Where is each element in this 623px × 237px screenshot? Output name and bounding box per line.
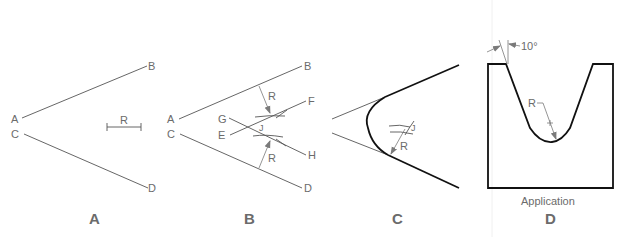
label-g: G xyxy=(218,113,227,125)
label-j: J xyxy=(411,123,416,133)
label-r: R xyxy=(528,97,536,109)
caption-a: A xyxy=(89,210,100,227)
fillet-construction-diagram: A C B D R A A C B D E F G H R xyxy=(0,0,623,237)
construction-line-upper xyxy=(332,97,385,119)
center-arc-2 xyxy=(390,132,413,134)
line-gh xyxy=(229,118,306,155)
caption-b: B xyxy=(244,210,255,227)
final-line-upper xyxy=(385,65,459,97)
label-h: H xyxy=(308,149,316,161)
panel-b: A C B D E F G H R R J B xyxy=(167,60,316,227)
angle-extension-slant xyxy=(499,40,507,64)
caption-d: D xyxy=(545,210,556,227)
label-a: A xyxy=(167,113,175,125)
label-angle: 10° xyxy=(521,40,538,52)
line-cd xyxy=(180,134,302,188)
label-b: B xyxy=(148,60,155,72)
final-line-lower xyxy=(388,155,459,188)
construction-line-lower xyxy=(332,133,388,155)
line-cd xyxy=(24,134,148,188)
label-radius: R xyxy=(120,114,128,126)
label-b: B xyxy=(304,60,311,72)
label-a: A xyxy=(11,113,19,125)
label-d: D xyxy=(304,182,312,194)
label-e: E xyxy=(218,129,225,141)
label-c: C xyxy=(167,128,175,140)
label-c: C xyxy=(11,128,19,140)
angle-arrow-left xyxy=(487,46,500,52)
angle-arrow-right xyxy=(509,44,520,46)
label-r-bottom: R xyxy=(268,152,276,164)
line-ef xyxy=(230,101,306,135)
label-d: D xyxy=(148,182,156,194)
panel-a: A C B D R A xyxy=(11,60,156,227)
arc-tick-bottom xyxy=(276,139,286,146)
panel-c: J R C xyxy=(332,65,459,227)
center-arc-1 xyxy=(389,125,410,127)
label-r: R xyxy=(400,140,408,152)
radius-leader xyxy=(537,103,556,139)
label-f: F xyxy=(308,95,315,107)
application-part-outline xyxy=(488,64,613,188)
caption-c: C xyxy=(392,210,403,227)
line-ab xyxy=(22,66,147,118)
label-r-top: R xyxy=(268,90,276,102)
panel-d: 10° R Application D xyxy=(487,0,613,237)
label-j: J xyxy=(259,123,264,133)
subtitle-application: Application xyxy=(521,195,575,207)
fillet-arc xyxy=(367,97,388,155)
